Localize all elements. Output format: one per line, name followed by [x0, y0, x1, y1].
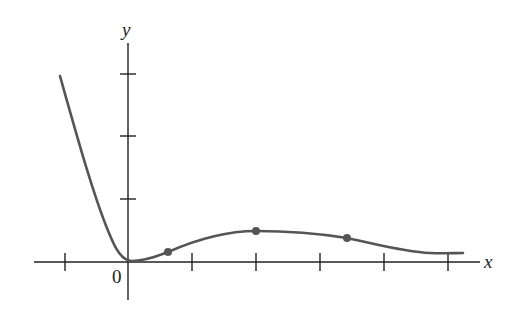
origin-label: 0 [112, 266, 122, 287]
x-axis-label: x [483, 251, 493, 272]
function-curve [60, 76, 463, 261]
marked-point [343, 234, 351, 242]
marked-point [252, 227, 260, 235]
marked-point [164, 248, 172, 256]
function-graph: y x 0 [0, 0, 515, 318]
y-axis-label: y [120, 19, 131, 40]
